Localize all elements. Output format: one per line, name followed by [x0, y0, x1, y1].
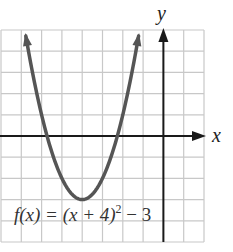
graph-canvas: x y f(x) = (x + 4)2 − 3 — [0, 0, 233, 252]
equation-main: f(x) = (x + 4) — [14, 204, 116, 226]
equation-tail: − 3 — [122, 204, 152, 225]
y-axis-label: y — [155, 2, 166, 25]
x-axis-label: x — [211, 124, 221, 146]
function-equation: f(x) = (x + 4)2 − 3 — [14, 202, 151, 226]
